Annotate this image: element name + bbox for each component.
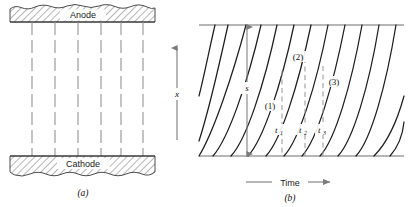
avalanche-curves-group <box>199 25 404 156</box>
avalanche-label-3: (3) <box>329 77 340 87</box>
figure-root: Anode Cathode (a) <box>0 0 414 207</box>
avalanche-label-1: (1) <box>265 101 276 111</box>
avalanche-curve <box>213 25 261 156</box>
time-label-1-sub: 1 <box>280 130 283 136</box>
anode-label: Anode <box>70 10 96 20</box>
time-axis-group: Time <box>246 178 330 188</box>
avalanche-curve <box>231 25 277 156</box>
cathode-label-group: Cathode <box>57 158 110 169</box>
time-axis-label: Time <box>280 178 300 188</box>
avalanche-label-2: (2) <box>293 52 304 62</box>
cathode-label: Cathode <box>66 159 100 169</box>
time-label-3-sub: 3 <box>322 130 326 136</box>
time-label-2: t 2 <box>296 124 310 136</box>
gap-label: s <box>245 83 249 93</box>
panel-b-caption: (b) <box>284 193 295 204</box>
time-label-2-sub: 2 <box>304 130 307 136</box>
field-lines-group <box>32 22 143 156</box>
avalanche-curve <box>199 25 215 96</box>
avalanche-curve <box>390 122 404 156</box>
anode-label-group: Anode <box>60 10 106 21</box>
avalanche-curve <box>248 25 294 156</box>
avalanche-labels-group: (1) (2) (3) <box>261 51 343 111</box>
avalanche-curve <box>199 25 246 156</box>
panel-b: x s <box>171 25 404 204</box>
time-label-1: t 1 <box>272 124 286 136</box>
time-label-3: t 3 <box>315 124 329 136</box>
x-axis-label: x <box>174 89 179 99</box>
panel-a-caption: (a) <box>77 188 88 199</box>
panel-a: Anode Cathode (a) <box>10 5 155 200</box>
gap-arrow-group: s <box>241 27 253 154</box>
x-axis-group: x <box>171 48 183 140</box>
avalanche-curve <box>199 25 228 141</box>
time-labels-group: t 1 t 2 t 3 <box>272 124 329 136</box>
